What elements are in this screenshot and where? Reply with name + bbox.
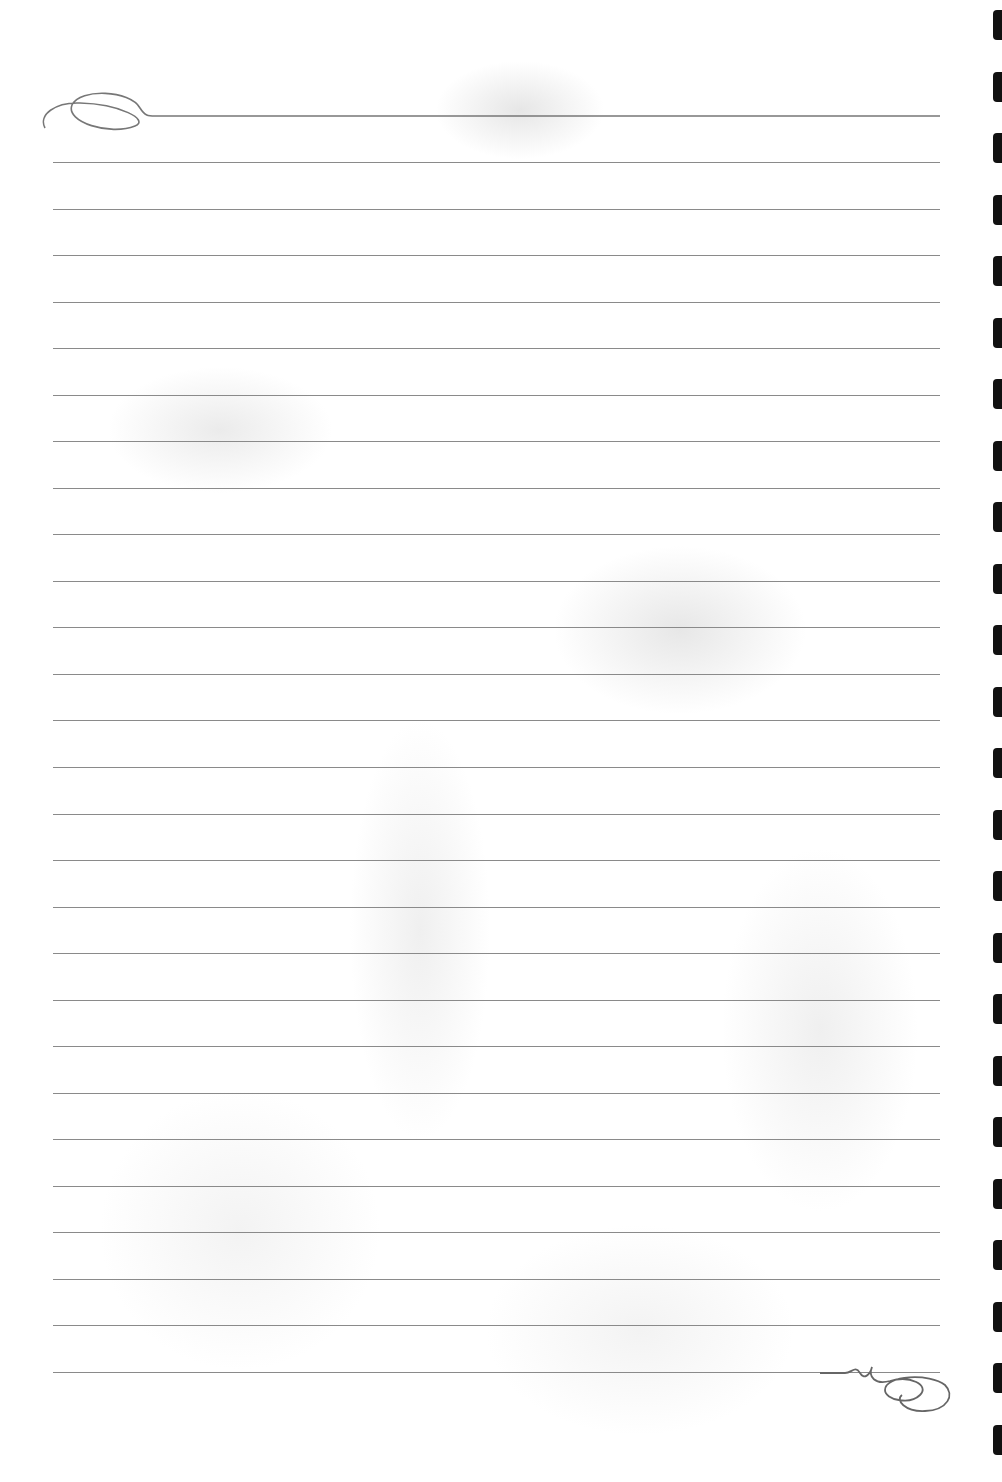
binding-hole [993, 810, 1002, 840]
ruled-line [53, 534, 940, 535]
binding-hole [993, 1179, 1002, 1209]
notebook-page [0, 0, 1002, 1482]
ruled-line [53, 1046, 940, 1047]
binding-hole [993, 256, 1002, 286]
binding-hole [993, 195, 1002, 225]
binding-hole [993, 871, 1002, 901]
binding-hole [993, 748, 1002, 778]
binding-hole [993, 687, 1002, 717]
floral-watermark-background [40, 30, 950, 1450]
ruled-line [53, 1186, 940, 1187]
ruled-line [53, 209, 940, 210]
binding-hole [993, 441, 1002, 471]
ruled-line [53, 953, 940, 954]
binding-hole [993, 1117, 1002, 1147]
binding-hole [993, 10, 1002, 40]
ruled-line [53, 907, 940, 908]
bottom-right-flourish-icon [820, 1345, 960, 1425]
binding-hole [993, 1056, 1002, 1086]
ruled-line [53, 674, 940, 675]
ruled-line [53, 814, 940, 815]
binding-hole [993, 502, 1002, 532]
ruled-line [53, 860, 940, 861]
binding-hole [993, 379, 1002, 409]
ruled-line [53, 1325, 940, 1326]
binding-hole [993, 1363, 1002, 1393]
ruled-line [53, 1093, 940, 1094]
binding-hole [993, 1425, 1002, 1455]
ruled-line [53, 1372, 940, 1373]
top-left-flourish-icon [0, 70, 950, 150]
binding-hole [993, 1240, 1002, 1270]
ruled-line [53, 395, 940, 396]
ruled-line [53, 767, 940, 768]
ruled-line [53, 441, 940, 442]
ruled-line [53, 1279, 940, 1280]
binding-hole [993, 133, 1002, 163]
ruled-line [53, 255, 940, 256]
binding-hole [993, 318, 1002, 348]
ruled-line [53, 720, 940, 721]
binding-hole [993, 1302, 1002, 1332]
ruled-line [53, 581, 940, 582]
ruled-line [53, 1139, 940, 1140]
binding-hole [993, 625, 1002, 655]
ruled-line [53, 1000, 940, 1001]
ruled-line [53, 348, 940, 349]
ruled-line [53, 627, 940, 628]
binding-hole [993, 933, 1002, 963]
binding-hole [993, 994, 1002, 1024]
ruled-line [53, 1232, 940, 1233]
ruled-line [53, 488, 940, 489]
ruled-line [53, 162, 940, 163]
binding-hole [993, 72, 1002, 102]
ruled-line [53, 302, 940, 303]
binding-hole [993, 564, 1002, 594]
